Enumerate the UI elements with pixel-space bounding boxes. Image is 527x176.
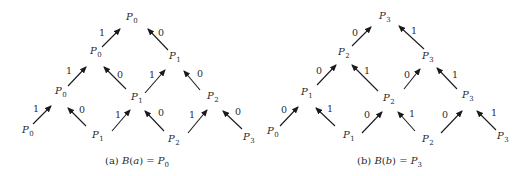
edge-label: 0 [404, 69, 410, 80]
edge-label: 0 [158, 27, 164, 38]
edge-label: 0 [158, 107, 164, 118]
edge-label: 1 [115, 109, 121, 120]
edge-label: 1 [66, 65, 72, 76]
edge-label: 0 [352, 27, 358, 38]
tree-node-label: P0 [125, 11, 138, 25]
diagram-b-binary-tree: 010101010101P3P2P3P1P2P3P0P1P2P3(b) B(b)… [266, 10, 509, 169]
edge-label: 1 [409, 108, 415, 119]
tree-node-label: P2 [382, 92, 395, 106]
edge-label: 1 [452, 69, 458, 80]
edge-label: 1 [99, 27, 105, 38]
edge-label: 0 [197, 68, 203, 79]
tree-node-label: P3 [461, 89, 474, 103]
tree-node-label: P1 [130, 91, 143, 105]
diagram-canvas: 101010101010P0P0P1P0P1P2P0P1P2P3(a) B(a)… [0, 0, 527, 176]
tree-node-label: P1 [300, 86, 313, 100]
tree-node-label: P3 [378, 10, 391, 24]
edge-label: 1 [491, 107, 497, 118]
tree-node-label: P2 [167, 133, 180, 147]
edge-label: 0 [235, 106, 241, 117]
edge-label: 0 [442, 109, 448, 120]
tree-node-label: P0 [266, 125, 279, 139]
diagram-caption: (b) B(b) = P3 [357, 155, 422, 169]
edge-label: 1 [364, 65, 370, 76]
edge-label: 0 [281, 104, 287, 115]
diagram-caption: (a) B(a) = P0 [105, 155, 169, 169]
edge-label: 1 [189, 109, 195, 120]
tree-node-label: P2 [421, 133, 434, 147]
edge-label: 0 [364, 109, 370, 120]
tree-node-label: P1 [342, 129, 355, 143]
edge-label: 0 [316, 65, 322, 76]
edge-label: 0 [79, 104, 85, 115]
edge-label: 0 [117, 69, 123, 80]
tree-node-label: P1 [168, 50, 181, 64]
tree-node-label: P2 [337, 46, 350, 60]
tree-node-label: P3 [242, 131, 255, 145]
tree-node-label: P1 [91, 129, 104, 143]
tree-node-label: P3 [421, 50, 434, 64]
edge-label: 1 [149, 69, 155, 80]
tree-node-label: P0 [21, 124, 34, 138]
tree-node-label: P0 [54, 85, 67, 99]
edge-label: 1 [411, 25, 417, 36]
tree-node-label: P3 [496, 130, 509, 144]
edge-label: 1 [327, 103, 333, 114]
tree-node-label: P2 [206, 90, 219, 104]
diagram-a-binary-tree: 101010101010P0P0P1P0P1P2P0P1P2P3(a) B(a)… [21, 11, 255, 169]
tree-node-label: P0 [89, 45, 102, 59]
edge-label: 1 [33, 103, 39, 114]
